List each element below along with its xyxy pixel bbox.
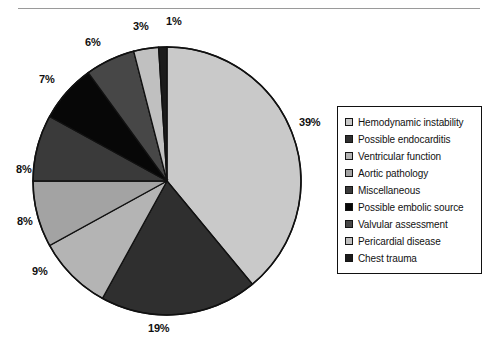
chart-page: 39%19%9%8%8%7%6%3%1% Hemodynamic instabi… xyxy=(0,0,490,344)
pie-slice-percent-label: 3% xyxy=(133,20,149,32)
legend-item[interactable]: Hemodynamic instability xyxy=(345,114,476,130)
legend-item[interactable]: Possible endocarditis xyxy=(345,131,476,147)
legend-swatch-icon xyxy=(345,169,353,177)
pie-slices xyxy=(33,47,301,315)
legend-item-label: Possible embolic source xyxy=(358,202,464,213)
legend-swatch-icon xyxy=(345,118,353,126)
legend-item-label: Possible endocarditis xyxy=(358,134,450,145)
legend-item[interactable]: Miscellaneous xyxy=(345,182,476,198)
legend-item[interactable]: Pericardial disease xyxy=(345,233,476,249)
legend-item[interactable]: Ventricular function xyxy=(345,148,476,164)
legend-item[interactable]: Chest trauma xyxy=(345,250,476,266)
legend-item-label: Pericardial disease xyxy=(358,236,441,247)
legend-item[interactable]: Aortic pathology xyxy=(345,165,476,181)
pie-slice-percent-label: 9% xyxy=(32,265,48,277)
pie-slice-percent-label: 1% xyxy=(166,15,182,27)
legend-item-label: Chest trauma xyxy=(358,253,417,264)
pie-slice-percent-label: 6% xyxy=(85,36,101,48)
pie-chart: 39%19%9%8%8%7%6%3%1% xyxy=(0,0,330,344)
legend-swatch-icon xyxy=(345,135,353,143)
pie-slice-percent-label: 19% xyxy=(148,322,169,334)
legend-item[interactable]: Possible embolic source xyxy=(345,199,476,215)
legend-item-label: Hemodynamic instability xyxy=(358,117,464,128)
legend-swatch-icon xyxy=(345,186,353,194)
legend-swatch-icon xyxy=(345,237,353,245)
legend-item-label: Aortic pathology xyxy=(358,168,428,179)
pie-slice-percent-label: 7% xyxy=(39,73,55,85)
pie-chart-svg xyxy=(0,0,330,344)
chart-legend: Hemodynamic instabilityPossible endocard… xyxy=(337,106,482,274)
pie-slice-percent-label: 39% xyxy=(299,116,320,128)
pie-slice-percent-label: 8% xyxy=(16,163,32,175)
legend-swatch-icon xyxy=(345,220,353,228)
legend-swatch-icon xyxy=(345,152,353,160)
legend-item-label: Ventricular function xyxy=(358,151,441,162)
legend-item-label: Miscellaneous xyxy=(358,185,420,196)
legend-swatch-icon xyxy=(345,254,353,262)
legend-swatch-icon xyxy=(345,203,353,211)
pie-slice-percent-label: 8% xyxy=(17,215,33,227)
legend-item-label: Valvular assessment xyxy=(358,219,448,230)
legend-item[interactable]: Valvular assessment xyxy=(345,216,476,232)
